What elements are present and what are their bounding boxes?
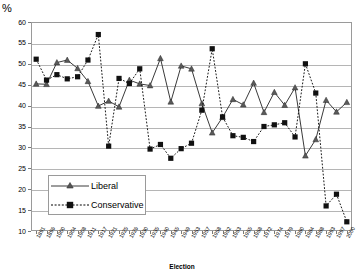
data-point-conservative [303,61,308,66]
data-point-liberal [199,101,205,106]
data-point-conservative [44,78,49,83]
legend-symbol-liberal [49,178,91,194]
x-axis-title: Election [0,263,364,270]
data-point-conservative [292,134,297,139]
data-point-liberal [64,57,70,62]
data-point-conservative [272,122,277,127]
data-point-conservative [65,76,70,81]
data-point-liberal [116,104,122,109]
data-point-conservative [282,120,287,125]
data-point-conservative [241,135,246,140]
data-point-conservative [85,57,90,62]
data-point-liberal [251,80,257,85]
data-point-liberal [106,98,112,103]
data-point-conservative [220,114,225,119]
data-point-conservative [54,72,59,77]
data-point-conservative [261,124,266,129]
legend-item-conservative: Conservative [49,195,147,215]
data-point-conservative [313,90,318,95]
data-point-liberal [158,55,164,60]
data-point-conservative [334,192,339,197]
data-point-liberal [303,153,309,158]
data-point-conservative [168,156,173,161]
chart-root: % 1015202530354045505560 189118961900190… [0,0,364,278]
data-point-conservative [344,219,349,224]
data-point-conservative [75,74,80,79]
data-point-conservative [147,146,152,151]
data-point-conservative [158,142,163,147]
data-point-liberal [271,89,277,94]
data-point-conservative [106,144,111,149]
data-point-conservative [179,146,184,151]
data-point-liberal [240,102,246,107]
data-point-conservative [127,81,132,86]
legend-item-liberal: Liberal [49,176,147,196]
data-point-liberal [344,99,350,104]
data-point-liberal [292,85,298,90]
data-point-liberal [95,103,101,108]
data-point-conservative [324,203,329,208]
data-point-conservative [210,46,215,51]
data-point-liberal [261,109,267,114]
data-point-liberal [313,136,319,141]
data-point-conservative [189,141,194,146]
data-point-liberal [230,96,236,101]
legend: Liberal Conservative [48,175,146,215]
data-point-liberal [178,63,184,68]
data-point-conservative [199,108,204,113]
legend-label-conservative: Conservative [91,200,144,210]
data-point-liberal [323,97,329,102]
data-point-conservative [96,32,101,37]
data-point-conservative [230,133,235,138]
legend-symbol-conservative [49,197,91,213]
legend-label-liberal: Liberal [91,181,118,191]
data-point-conservative [34,57,39,62]
data-point-liberal [168,99,174,104]
data-point-conservative [251,139,256,144]
data-point-conservative [116,76,121,81]
data-point-conservative [137,66,142,71]
